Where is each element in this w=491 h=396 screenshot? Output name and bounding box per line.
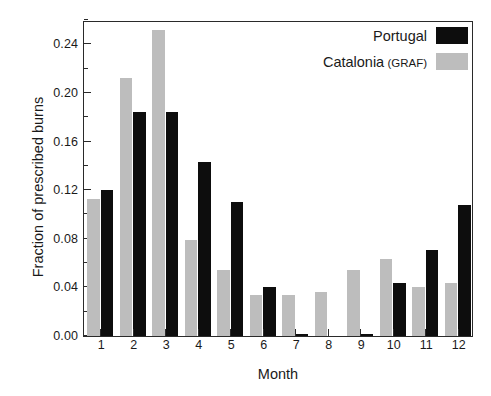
x-tick: 5: [230, 329, 231, 336]
bar-catalonia: [185, 240, 198, 336]
x-tick-label: 2: [130, 338, 137, 352]
bar-catalonia: [412, 287, 425, 336]
legend-item: Portugal: [246, 27, 468, 44]
x-tick: 7: [295, 329, 296, 336]
x-tick-label: 4: [195, 338, 202, 352]
x-tick-label: 12: [452, 338, 466, 352]
y-tick-minor: [84, 19, 88, 20]
x-tick-label: 6: [260, 338, 267, 352]
bar-catalonia: [217, 270, 230, 336]
legend-item: Catalonia (GRAF): [246, 53, 468, 70]
bar-catalonia: [250, 295, 263, 336]
bar-portugal: [198, 162, 211, 336]
bar-portugal: [296, 334, 309, 336]
y-axis-title: Fraction of prescribed burns: [30, 57, 46, 317]
legend-label: Catalonia (GRAF): [323, 54, 427, 70]
bar-catalonia: [315, 292, 328, 336]
x-tick-label: 1: [98, 338, 105, 352]
y-tick-label: 0.16: [53, 135, 78, 149]
bar-catalonia: [87, 199, 100, 336]
x-tick: 8: [328, 329, 329, 336]
x-tick: 10: [393, 329, 394, 336]
x-tick: 1: [100, 329, 101, 336]
x-tick-label: 7: [293, 338, 300, 352]
x-tick: 11: [425, 329, 426, 336]
bar-portugal: [166, 112, 179, 336]
x-tick-label: 8: [325, 338, 332, 352]
y-tick-label: 0.04: [53, 280, 78, 294]
bar-portugal: [393, 283, 406, 336]
bar-portugal: [133, 112, 146, 336]
bar-portugal: [458, 205, 471, 336]
x-tick-label: 11: [420, 338, 433, 352]
chart-legend: PortugalCatalonia (GRAF): [246, 27, 468, 79]
bar-catalonia: [152, 30, 165, 336]
bar-catalonia: [120, 78, 133, 336]
x-tick: 6: [263, 329, 264, 336]
x-tick: 3: [165, 329, 166, 336]
y-tick-label: 0.20: [53, 86, 78, 100]
x-tick-label: 3: [163, 338, 170, 352]
x-tick: 2: [133, 329, 134, 336]
bar-catalonia: [347, 270, 360, 336]
x-axis-title: Month: [83, 366, 473, 382]
legend-swatch-portugal: [436, 27, 468, 44]
x-tick-label: 9: [358, 338, 365, 352]
y-tick-label: 0.08: [53, 232, 78, 246]
x-tick-label: 5: [228, 338, 235, 352]
y-tick-label: 0.24: [53, 37, 78, 51]
x-tick: 4: [198, 329, 199, 336]
x-tick: 12: [458, 329, 459, 336]
chart-root: Fraction of prescribed burns Month 0.000…: [0, 0, 491, 396]
bar-catalonia: [445, 283, 458, 336]
bar-catalonia: [282, 295, 295, 336]
bar-portugal: [426, 250, 439, 336]
y-tick-label: 0.12: [53, 183, 78, 197]
bar-portugal: [263, 287, 276, 336]
x-tick: 9: [360, 329, 361, 336]
bar-portugal: [231, 202, 244, 336]
x-tick-label: 10: [387, 338, 401, 352]
bar-catalonia: [380, 259, 393, 336]
bar-portugal: [361, 334, 374, 336]
bar-portugal: [101, 190, 114, 336]
legend-label: Portugal: [373, 28, 427, 44]
y-tick-label: 0.00: [53, 329, 78, 343]
legend-sublabel: (GRAF): [384, 57, 427, 69]
legend-swatch-catalonia: [436, 53, 468, 70]
